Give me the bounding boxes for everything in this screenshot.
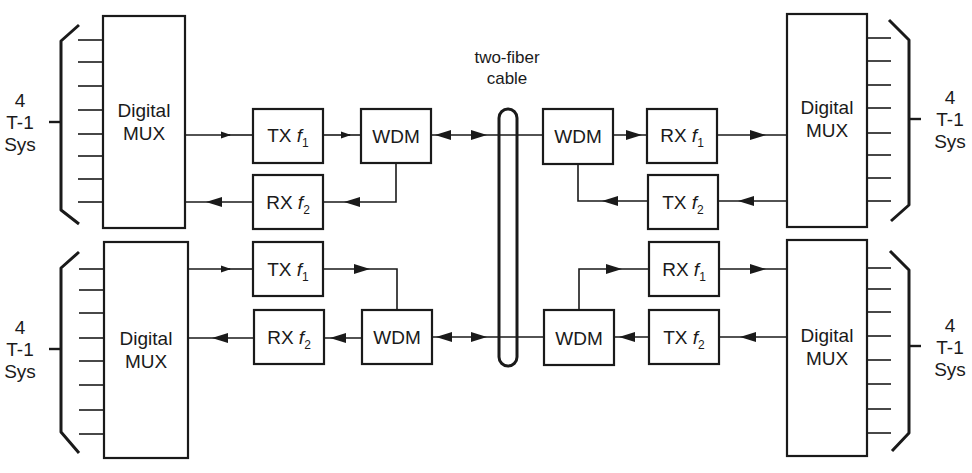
wdm-link-diagram: 4 T-1 Sys Digital MUX TX f1 <box>0 0 972 473</box>
right-bottom-wdm-to-rx-path <box>579 269 649 310</box>
right-bottom-bracket-icon <box>890 251 909 451</box>
right-top-tx-to-wdm-path <box>578 164 648 201</box>
left-bottom-input-lines <box>79 269 104 434</box>
left-top-mux-label-line2: MUX <box>123 123 166 144</box>
right-top-bracket-icon <box>889 20 909 221</box>
right-bottom-tx-input-arrow-icon <box>740 332 756 342</box>
left-bottom-bracket-icon <box>61 252 79 453</box>
right-bottom-sys-type: T-1 <box>936 337 963 358</box>
left-top-bidirectional-arrow-left-icon <box>435 130 451 140</box>
left-top-bracket-icon <box>61 25 79 224</box>
left-top-input-lines <box>78 40 103 202</box>
right-bottom-mux-label-line2: MUX <box>806 348 849 369</box>
left-top-mux-input-arrow-icon <box>206 197 222 207</box>
cable-label-line2: cable <box>487 69 528 88</box>
right-bottom-mux-label-line1: Digital <box>801 325 854 346</box>
right-top-rx-input-arrow-icon <box>626 130 642 140</box>
right-top-output-lines <box>867 38 891 201</box>
left-bottom-mux-label-line1: Digital <box>120 328 173 349</box>
right-top-sys-label: Sys <box>934 131 966 152</box>
left-top-bidirectional-arrow-right-icon <box>471 130 487 140</box>
left-bottom-rx-input-arrow-icon <box>330 333 346 343</box>
left-bottom-mux-input-arrow-icon <box>212 333 228 343</box>
fiber-cable-sheath-icon <box>499 109 517 366</box>
right-bottom-mux-input-arrow-icon <box>750 264 766 274</box>
left-bottom-bidirectional-arrow-right-icon <box>471 332 487 342</box>
right-top-sys-count: 4 <box>945 87 956 108</box>
left-top-wdm-label: WDM <box>372 126 419 147</box>
left-bottom-tx-output-arrow-icon <box>354 264 370 274</box>
cable-label-line1: two-fiber <box>474 48 540 67</box>
left-top-wdm-to-rx-path <box>323 163 396 202</box>
left-top-sys-count: 4 <box>15 90 26 111</box>
right-top-wdm-label: WDM <box>554 126 601 147</box>
right-bottom-wdm-label: WDM <box>555 328 602 349</box>
right-bottom-sys-count: 4 <box>945 315 956 336</box>
left-bottom-mux-label-line2: MUX <box>125 351 168 372</box>
left-bottom-digital-mux <box>104 242 188 458</box>
left-bottom-sys-count: 4 <box>15 317 26 338</box>
left-bottom-sys-label: Sys <box>4 361 36 382</box>
left-bottom-wdm-label: WDM <box>373 327 420 348</box>
right-top-mux-label-line2: MUX <box>806 120 849 141</box>
right-top-wdm-input-arrow-icon <box>602 196 618 206</box>
left-top-sys-label: Sys <box>4 134 36 155</box>
left-bottom-system: 4 T-1 Sys Digital MUX TX f1 WDM <box>4 242 500 458</box>
right-top-mux-label-line1: Digital <box>801 97 854 118</box>
left-top-sys-type: T-1 <box>6 112 33 133</box>
right-top-tx-input-arrow-icon <box>738 196 754 206</box>
left-top-digital-mux <box>103 16 185 228</box>
right-bottom-sys-label: Sys <box>934 359 966 380</box>
right-bottom-system: WDM RX f1 TX f2 Digital MUX <box>544 240 966 456</box>
left-bottom-sys-type: T-1 <box>6 339 33 360</box>
left-bottom-bidirectional-arrow-left-icon <box>436 332 452 342</box>
right-top-system: WDM RX f1 TX f2 Digital MUX <box>543 14 966 229</box>
two-fiber-cable: two-fiber cable <box>474 48 545 366</box>
right-bottom-rx-input-arrow-icon <box>606 264 622 274</box>
left-top-mux-label-line1: Digital <box>118 100 171 121</box>
right-bottom-output-lines <box>867 268 891 433</box>
left-top-rx-input-arrow-icon <box>344 197 360 207</box>
left-bottom-tx-to-wdm-path <box>323 269 397 310</box>
left-top-system: 4 T-1 Sys Digital MUX TX f1 <box>4 16 500 229</box>
right-bottom-wdm-input-arrow-icon <box>619 332 635 342</box>
right-top-sys-type: T-1 <box>936 109 963 130</box>
right-top-mux-input-arrow-icon <box>750 130 766 140</box>
